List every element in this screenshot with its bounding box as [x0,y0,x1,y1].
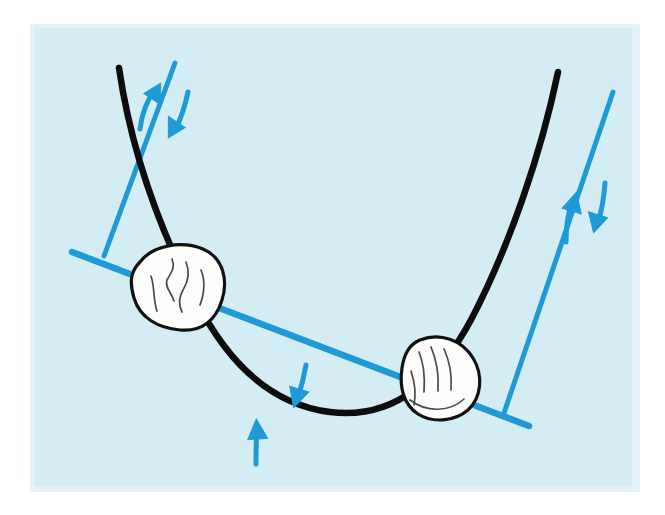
bead-left-outline [131,245,224,330]
bead-left [131,245,224,330]
bead-right [401,337,480,420]
diagram-canvas: Hand-drawn diagram of a bead on a curved… [0,0,665,515]
paper-panel-edge-left [30,24,35,492]
figure-root: Hand-drawn diagram of a bead on a curved… [0,0,665,515]
paper-panel-edge-bottom [30,486,640,492]
paper-panel-edge-right [632,24,640,492]
paper-panel-edge-top [30,24,640,28]
